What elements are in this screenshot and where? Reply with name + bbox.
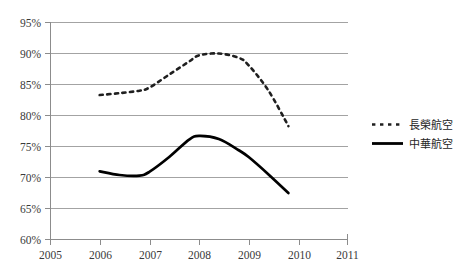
y-tick-label-95: 95% [20,17,42,29]
chart-background [0,0,466,278]
y-tick-label-90: 90% [20,48,42,60]
x-tick-label-2010: 2010 [288,249,311,261]
y-tick-label-85: 85% [20,79,42,91]
y-tick-label-65: 65% [20,203,42,215]
legend-label-0: 長榮航空 [409,118,453,132]
y-tick-label-80: 80% [20,110,42,122]
y-tick-label-70: 70% [20,172,42,184]
x-tick-label-2005: 2005 [39,249,62,261]
line-chart: 95% 90% 85% 80% 75% 70% 65% 60% 2005 200… [0,0,466,278]
chart-canvas: 95% 90% 85% 80% 75% 70% 65% 60% 2005 200… [0,0,466,278]
x-tick-label-2006: 2006 [89,249,112,261]
x-tick-label-2008: 2008 [188,249,211,261]
x-tick-label-2007: 2007 [139,249,162,261]
y-tick-label-75: 75% [20,141,42,153]
legend-label-1: 中華航空 [409,137,453,151]
y-tick-label-60: 60% [20,234,42,246]
x-tick-label-2011: 2011 [336,249,359,261]
x-tick-label-2009: 2009 [238,249,261,261]
